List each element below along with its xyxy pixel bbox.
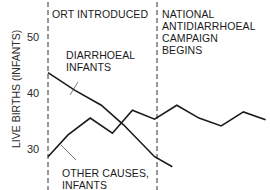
- line-chart: LIVE BIRTHS (INFANTS) 50 40 30 ORT INTRO…: [0, 0, 270, 190]
- y-tick-50: 50: [27, 31, 39, 43]
- other-causes-label-line-1: OTHER CAUSES,: [62, 167, 149, 179]
- other-causes-leader-line: [61, 145, 76, 160]
- ort-introduced-annotation: ORT INTRODUCED: [52, 8, 148, 20]
- other-causes-label-line-2: INFANTS: [62, 179, 107, 190]
- campaign-line-2: ANTIDIARRHOEAL: [162, 20, 256, 32]
- campaign-line-3: CAMPAIGN: [162, 32, 218, 44]
- diarrhoeal-label-line-2: INFANTS: [66, 61, 111, 73]
- diarrhoeal-infants-line: [48, 73, 172, 167]
- y-tick-30: 30: [27, 143, 39, 155]
- campaign-line-4: BEGINS: [162, 44, 202, 56]
- diarrhoeal-label-line-1: DIARRHOEAL: [66, 49, 135, 61]
- y-axis-label: LIVE BIRTHS (INFANTS): [10, 30, 22, 148]
- campaign-line-1: NATIONAL: [162, 8, 215, 20]
- y-tick-40: 40: [27, 87, 39, 99]
